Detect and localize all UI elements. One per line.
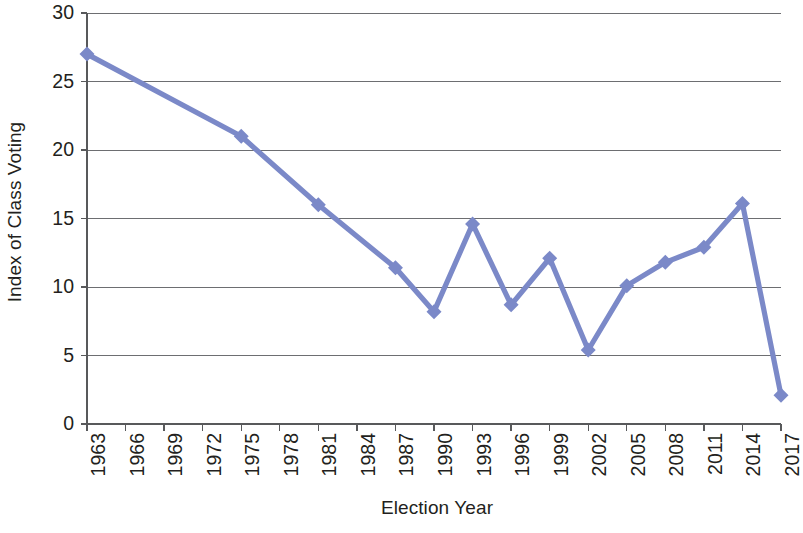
x-axis-tick-label: 2014 [742,433,764,493]
x-axis-tick-label: 1993 [473,433,495,493]
x-axis-title: Election Year [80,497,794,519]
x-axis-tick-label: 1996 [511,433,533,493]
x-axis-tick-label: 1990 [434,433,456,493]
x-axis-tick-label: 1999 [550,433,572,493]
x-axis-tick-label: 2017 [781,433,803,493]
x-axis-tick-label: 1987 [395,433,417,493]
x-axis-tick-label: 2005 [627,433,649,493]
x-axis-tick-label: 1969 [164,433,186,493]
x-axis-tick-label: 1981 [318,433,340,493]
x-axis-tick-label: 1972 [203,433,225,493]
x-axis-tick-label: 2011 [704,433,726,493]
x-axis-tick-label: 1963 [87,433,109,493]
x-axis-tick-label: 2008 [665,433,687,493]
x-axis-tick-label: 1978 [280,433,302,493]
x-axis-tick-label: 1966 [126,433,148,493]
x-axis-tick-label: 1975 [241,433,263,493]
x-axis-tick-label: 1984 [357,433,379,493]
x-axis-tick-label: 2002 [588,433,610,493]
